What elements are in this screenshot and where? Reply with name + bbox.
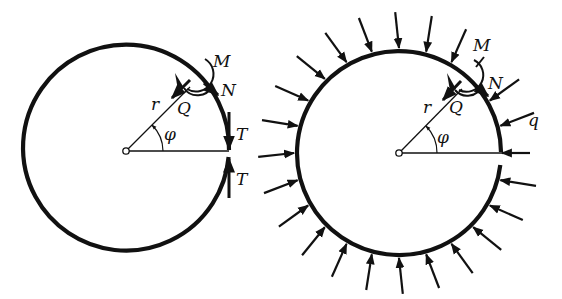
left-label-end-force-bottom: T — [236, 169, 249, 189]
right-cut-wedge — [447, 73, 456, 91]
pressure-arrow — [452, 29, 467, 62]
pressure-arrow — [399, 258, 403, 294]
pressure-arrow — [359, 18, 372, 52]
left-cut-wedge — [175, 73, 184, 90]
right-label-angle: φ — [437, 127, 449, 147]
left-ring-figure: M N Q r φ T T — [23, 45, 249, 251]
pressure-arrow — [297, 56, 325, 79]
right-label-pressure: q — [528, 110, 539, 130]
pressure-arrow — [426, 16, 432, 52]
pressure-arrow — [332, 244, 347, 277]
pressure-arrow — [275, 86, 308, 101]
left-label-moment: M — [212, 51, 231, 71]
right-label-moment: M — [472, 35, 491, 55]
pressure-arrow — [490, 206, 523, 221]
right-angle-arc — [426, 126, 437, 153]
pressure-arrow — [279, 206, 308, 227]
pressure-arrow — [452, 244, 473, 273]
right-label-radius: r — [423, 97, 432, 117]
ring-diagrams: M N Q r φ T T M N Q r φ — [0, 0, 562, 299]
left-label-shear: Q — [177, 98, 191, 118]
right-ring-figure: M N Q r φ q — [258, 12, 539, 294]
pressure-arrow — [262, 120, 298, 126]
pressure-arrow — [302, 227, 325, 255]
pressure-arrow — [426, 254, 439, 288]
right-label-shear: Q — [449, 97, 463, 117]
pressure-arrow — [264, 180, 298, 193]
pressure-arrow — [366, 254, 372, 290]
left-label-normal: N — [220, 80, 237, 100]
left-label-angle: φ — [164, 124, 176, 144]
left-angle-arc — [152, 125, 163, 151]
pressure-arrow — [258, 153, 294, 157]
left-label-end-force-top: T — [236, 124, 249, 144]
pressure-arrow — [500, 180, 536, 186]
pressure-arrow — [395, 12, 399, 48]
left-label-radius: r — [151, 94, 160, 114]
pressure-arrow — [325, 33, 346, 62]
pressure-arrow — [473, 227, 501, 250]
right-label-normal: N — [487, 73, 504, 93]
